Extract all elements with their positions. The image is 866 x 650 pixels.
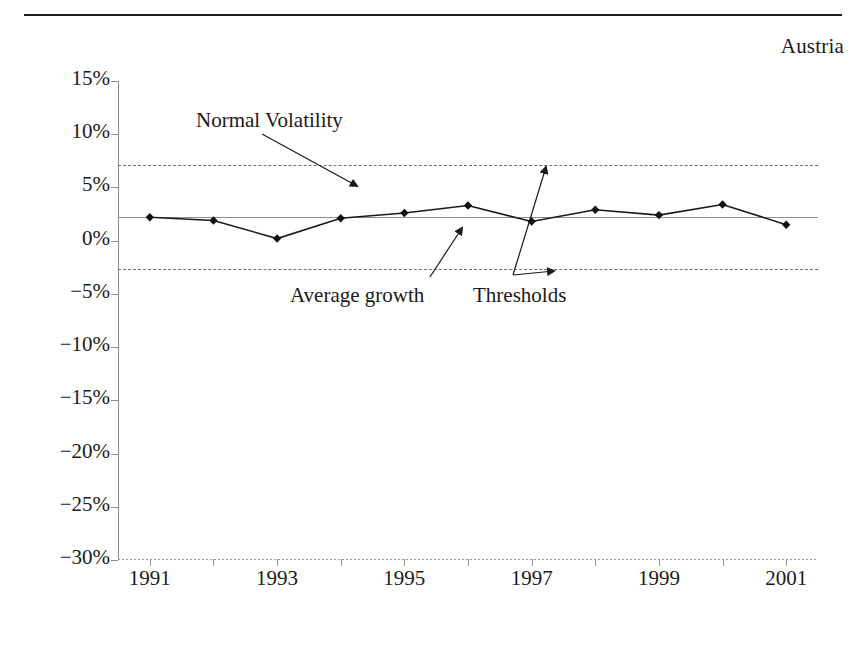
y-tick-label: −5% — [70, 279, 110, 304]
plot-area — [118, 81, 818, 560]
x-tick-label: 1991 — [129, 566, 171, 591]
y-tick — [111, 241, 118, 242]
y-tick — [111, 134, 118, 135]
x-tick — [213, 559, 214, 566]
annotation-average-growth: Average growth — [290, 283, 424, 308]
top-divider-rule — [24, 14, 842, 16]
data-point-marker — [400, 209, 408, 217]
x-tick — [468, 559, 469, 566]
x-tick — [532, 559, 533, 566]
x-tick — [723, 559, 724, 566]
y-tick-label: 15% — [72, 66, 111, 91]
series-markers — [146, 200, 791, 242]
y-tick — [111, 454, 118, 455]
x-tick — [786, 559, 787, 566]
data-point-marker — [591, 206, 599, 214]
annotation-thresholds: Thresholds — [473, 283, 566, 308]
x-tick — [595, 559, 596, 566]
x-tick-label: 1999 — [638, 566, 680, 591]
y-tick-label: −15% — [60, 385, 110, 410]
x-tick-label: 1995 — [383, 566, 425, 591]
y-tick — [111, 507, 118, 508]
data-point-marker — [527, 217, 535, 225]
data-point-marker — [337, 214, 345, 222]
data-point-marker — [464, 201, 472, 209]
x-tick-label: 2001 — [765, 566, 807, 591]
y-tick-label: 10% — [72, 119, 111, 144]
data-point-marker — [782, 221, 790, 229]
x-tick-label: 1997 — [511, 566, 553, 591]
y-tick-label: −25% — [60, 492, 110, 517]
y-tick-label: −30% — [60, 545, 110, 570]
x-tick — [150, 559, 151, 566]
y-tick-label: 5% — [82, 172, 110, 197]
x-tick — [277, 559, 278, 566]
y-tick — [111, 81, 118, 82]
y-tick-label: −20% — [60, 439, 110, 464]
chart-page: Austria 199119931995199719992001 15%10%5… — [0, 0, 866, 650]
country-label: Austria — [781, 34, 844, 59]
data-point-marker — [718, 200, 726, 208]
x-tick — [341, 559, 342, 566]
data-point-marker — [273, 234, 281, 242]
y-tick-label: 0% — [82, 226, 110, 251]
x-tick — [404, 559, 405, 566]
y-tick — [111, 294, 118, 295]
y-tick — [111, 400, 118, 401]
x-tick — [659, 559, 660, 566]
x-tick-label: 1993 — [256, 566, 298, 591]
y-tick-label: −10% — [60, 332, 110, 357]
data-point-marker — [655, 211, 663, 219]
y-tick — [111, 560, 118, 561]
series-svg — [118, 81, 818, 560]
annotation-normal-volatility: Normal Volatility — [196, 108, 343, 133]
data-point-marker — [146, 213, 154, 221]
data-point-marker — [209, 216, 217, 224]
y-tick — [111, 187, 118, 188]
y-tick — [111, 347, 118, 348]
